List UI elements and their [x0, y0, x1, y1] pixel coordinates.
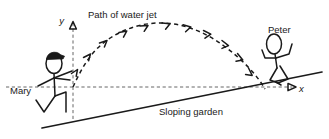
water-jet-path-group: Path of water jet [72, 9, 266, 89]
path-of-water-jet-label: Path of water jet [88, 9, 157, 20]
mary-left-arm [38, 78, 54, 86]
stick-figure-arms-raised-icon: Peter [262, 24, 292, 85]
sloping-garden-label: Sloping garden [159, 106, 223, 117]
peter-torso [275, 54, 277, 68]
sloping-ground-line [42, 72, 322, 128]
jet-arrowheads-group [72, 23, 253, 76]
mary-right-arm-upper [54, 78, 70, 80]
arrow-chevron-icon [162, 23, 170, 29]
x-axis-label: x [298, 83, 305, 94]
arrow-chevron-icon [140, 26, 148, 32]
stick-figure-with-cap-icon: Mary [10, 52, 72, 112]
arrow-chevron-icon [246, 68, 253, 75]
diagram-canvas: x y Sloping garden [0, 0, 329, 139]
mary-right-arm-lower [54, 71, 72, 78]
water-jet-trajectory [73, 23, 265, 89]
peter-label: Peter [268, 24, 291, 35]
water-jet-diagram: x y Sloping garden [0, 0, 329, 139]
peter-head [267, 34, 282, 54]
peter-right-arm [276, 44, 292, 58]
y-axis-label: y [58, 15, 65, 26]
arrow-chevron-icon [183, 25, 191, 32]
sloping-ground-group: Sloping garden [42, 72, 322, 128]
mary-left-leg [36, 96, 55, 112]
mary-right-leg [55, 92, 66, 112]
arrow-chevron-icon [119, 31, 127, 37]
mary-label: Mary [10, 85, 31, 96]
axes-group: x y [6, 15, 305, 119]
